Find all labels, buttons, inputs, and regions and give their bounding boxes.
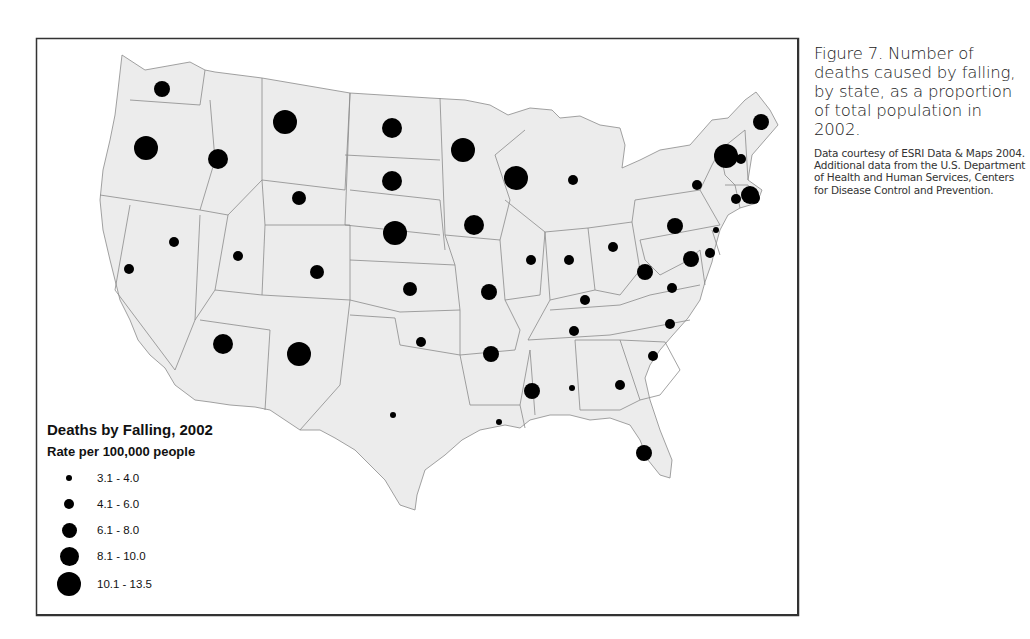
state-dot-tn xyxy=(569,326,579,336)
state-dot-md xyxy=(683,251,699,267)
state-dot-co xyxy=(310,265,324,279)
state-dot-tx xyxy=(390,412,396,418)
us-outline xyxy=(100,55,778,510)
state-dot-nd xyxy=(382,118,402,138)
state-dot-wa xyxy=(154,81,170,97)
state-dot-in xyxy=(564,255,574,265)
state-dot-al xyxy=(569,385,575,391)
state-dot-ri xyxy=(748,192,760,204)
state-dot-nc xyxy=(665,319,675,329)
state-dot-ok xyxy=(416,337,426,347)
state-dot-nv xyxy=(169,237,179,247)
state-dot-sd xyxy=(382,171,402,191)
state-dot-mi xyxy=(568,175,578,185)
state-dot-ca xyxy=(124,264,134,274)
state-dot-mt xyxy=(273,110,297,134)
caption-title: Figure 7. Number of deaths caused by fal… xyxy=(814,44,1030,139)
state-dot-ga xyxy=(615,380,625,390)
caption-source: Data courtesy of ESRI Data & Maps 2004. … xyxy=(814,147,1030,196)
state-dot-az xyxy=(213,334,233,354)
state-dot-ct xyxy=(731,194,741,204)
state-dot-wy xyxy=(292,191,306,205)
state-dot-mo xyxy=(481,284,497,300)
state-dot-il xyxy=(526,255,536,265)
state-dot-mn xyxy=(451,138,475,162)
state-dot-fl xyxy=(636,445,652,461)
state-outlines xyxy=(100,55,778,510)
state-dot-ut xyxy=(233,251,243,261)
figure-caption: Figure 7. Number of deaths caused by fal… xyxy=(814,44,1030,196)
state-dot-id xyxy=(208,149,228,169)
state-dot-ia xyxy=(464,215,484,235)
state-dot-wi xyxy=(504,166,528,190)
state-dot-or xyxy=(134,136,158,160)
state-dot-sc xyxy=(648,351,658,361)
state-dot-ar xyxy=(483,346,499,362)
state-dot-ks xyxy=(403,282,417,296)
state-dot-nm xyxy=(287,342,311,366)
state-dot-wv xyxy=(637,264,653,280)
state-dot-nj xyxy=(713,227,719,233)
state-dot-la xyxy=(496,419,502,425)
state-dot-nh xyxy=(736,154,746,164)
state-dot-ky xyxy=(580,295,590,305)
state-dot-oh xyxy=(608,242,618,252)
state-dot-ny xyxy=(692,180,702,190)
state-dot-me xyxy=(753,114,769,130)
state-dot-pa xyxy=(667,218,683,234)
state-dot-de xyxy=(705,248,715,258)
state-dot-ms xyxy=(524,383,540,399)
state-dot-ne xyxy=(383,221,407,245)
state-dot-va xyxy=(667,283,677,293)
state-dot-vt xyxy=(714,144,738,168)
